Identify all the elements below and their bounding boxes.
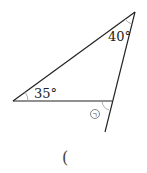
angle-arc-exterior: [102, 101, 109, 110]
triangle-diagram: ㄱ: [0, 0, 147, 173]
angle-arc-40: [125, 19, 132, 24]
angle-label-top: 40°: [108, 30, 131, 43]
angle-label-left: 35°: [34, 87, 57, 100]
exterior-angle-marker: ㄱ: [92, 111, 98, 118]
angle-arc-35: [25, 92, 28, 101]
answer-blank: (: [62, 150, 68, 166]
